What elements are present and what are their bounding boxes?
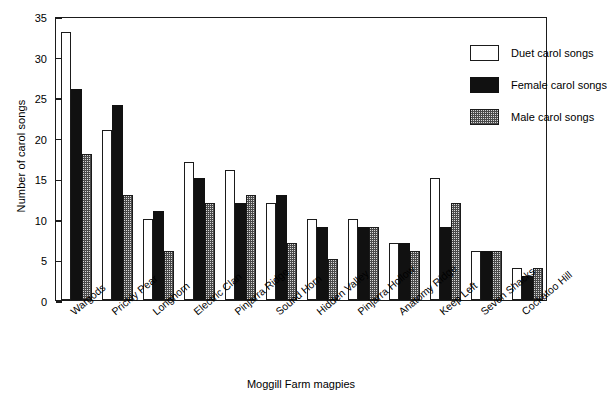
bar [71,89,81,300]
legend-label: Male carol songs [511,108,594,126]
y-tick-label: 30 [17,52,47,66]
plot-area: 05101520253035 Duet carol songsFemale ca… [55,17,547,301]
x-axis-title: Moggill Farm magpies [55,378,547,390]
legend-swatch [470,45,499,61]
bar [153,211,163,300]
bar [451,203,461,300]
legend-label: Female carol songs [511,76,607,94]
bar [358,227,368,300]
legend-swatch [470,77,499,93]
legend-label: Duet carol songs [511,44,594,62]
bar [102,130,112,300]
bar [246,195,256,300]
bar [481,251,491,300]
y-tick-label: 0 [17,295,47,309]
bar [184,162,194,300]
bar [194,178,204,300]
y-tick-label: 35 [17,11,47,25]
bar [82,154,92,300]
y-tick-mark [56,17,62,18]
y-tick-label: 15 [17,173,47,187]
y-tick-label: 20 [17,133,47,147]
bar [112,105,122,300]
y-tick-label: 10 [17,214,47,228]
legend-swatch [470,109,499,125]
bar [317,227,327,300]
bar [205,203,215,300]
y-tick-mark [56,301,62,302]
y-tick-label: 25 [17,92,47,106]
bar [61,32,71,300]
y-tick-label: 5 [17,254,47,268]
bar [123,195,133,300]
bar [235,203,245,300]
